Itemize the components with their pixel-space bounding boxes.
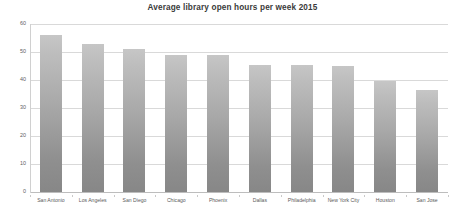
bar-series — [30, 24, 448, 192]
x-axis-tick-mark — [72, 195, 73, 197]
bar-slot — [72, 24, 114, 192]
x-axis-tick-mark — [197, 195, 198, 197]
x-axis-tick-mark — [239, 195, 240, 197]
x-axis-tick-label: Chicago — [155, 198, 197, 204]
bar-slot — [197, 24, 239, 192]
x-axis-tick-mark — [30, 195, 31, 197]
x-axis-tick-label: San Antonio — [30, 198, 72, 204]
y-axis-tick-label: 50 — [2, 49, 26, 54]
bar — [374, 81, 396, 192]
y-axis-tick-labels: 0102030405060 — [0, 24, 26, 192]
x-axis-tick-label: Los Angeles — [72, 198, 114, 204]
bar — [332, 66, 354, 192]
bar — [165, 55, 187, 192]
bar-chart: Average library open hours per week 2015… — [0, 0, 465, 223]
bar — [123, 49, 145, 192]
x-axis-tick-label: New York City — [323, 198, 365, 204]
x-axis-tick-label: Philadelphia — [281, 198, 323, 204]
bar-slot — [281, 24, 323, 192]
y-axis-tick-label: 10 — [2, 161, 26, 166]
bar-slot — [323, 24, 365, 192]
x-axis-tick-label: Houston — [364, 198, 406, 204]
bar-slot — [406, 24, 448, 192]
bar-slot — [155, 24, 197, 192]
bar — [40, 35, 62, 192]
gridline — [30, 192, 448, 193]
x-axis-tick-label: Phoenix — [197, 198, 239, 204]
x-axis-tick-label: San Diego — [114, 198, 156, 204]
x-axis-tick-label: San Jose — [406, 198, 448, 204]
y-axis-tick-label: 0 — [2, 189, 26, 194]
bar-slot — [114, 24, 156, 192]
bar — [82, 44, 104, 192]
x-axis-tick-labels: San AntonioLos AngelesSan DiegoChicagoPh… — [30, 195, 448, 211]
bar-slot — [239, 24, 281, 192]
x-axis-tick-label: Dallas — [239, 198, 281, 204]
bar — [291, 65, 313, 192]
x-axis-tick-mark — [281, 195, 282, 197]
bar — [416, 90, 438, 192]
chart-title: Average library open hours per week 2015 — [0, 3, 465, 12]
x-axis-tick-mark — [114, 195, 115, 197]
y-axis-tick-label: 40 — [2, 77, 26, 82]
bar-slot — [364, 24, 406, 192]
x-axis-tick-mark — [406, 195, 407, 197]
x-axis-tick-mark — [155, 195, 156, 197]
bar — [249, 65, 271, 192]
y-axis-tick-label: 30 — [2, 105, 26, 110]
x-axis-tick-mark — [364, 195, 365, 197]
y-axis-tick-label: 60 — [2, 21, 26, 26]
x-axis-tick-mark — [323, 195, 324, 197]
y-axis-tick-label: 20 — [2, 133, 26, 138]
bar-slot — [30, 24, 72, 192]
x-axis-tick-mark — [448, 195, 449, 197]
bar — [207, 55, 229, 192]
